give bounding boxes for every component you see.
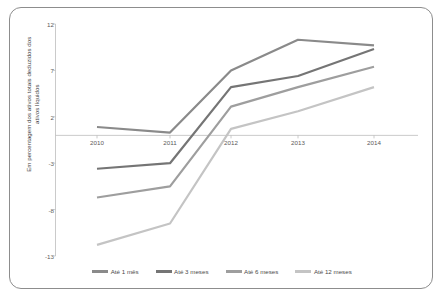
legend-label: Até 12 meses bbox=[314, 268, 352, 275]
legend-label: Até 3 meses bbox=[174, 268, 208, 275]
legend-color-swatch bbox=[156, 270, 172, 272]
legend-item[interactable]: Até 1 mês bbox=[92, 268, 138, 275]
legend-item[interactable]: Até 6 meses bbox=[226, 268, 279, 275]
legend-item[interactable]: Até 12 meses bbox=[295, 268, 351, 275]
line-chart: Em percentagem dos ativos totais deduzid… bbox=[0, 0, 444, 297]
chart-legend: Até 1 mêsAté 3 mesesAté 6 mesesAté 12 me… bbox=[0, 268, 444, 275]
legend-color-swatch bbox=[295, 270, 311, 272]
legend-color-swatch bbox=[92, 270, 108, 272]
legend-color-swatch bbox=[226, 270, 242, 272]
legend-label: Até 6 meses bbox=[244, 268, 278, 275]
plot-lines bbox=[0, 0, 444, 297]
series-line bbox=[97, 49, 374, 169]
legend-item[interactable]: Até 3 meses bbox=[156, 268, 209, 275]
legend-label: Até 1 mês bbox=[111, 268, 139, 275]
